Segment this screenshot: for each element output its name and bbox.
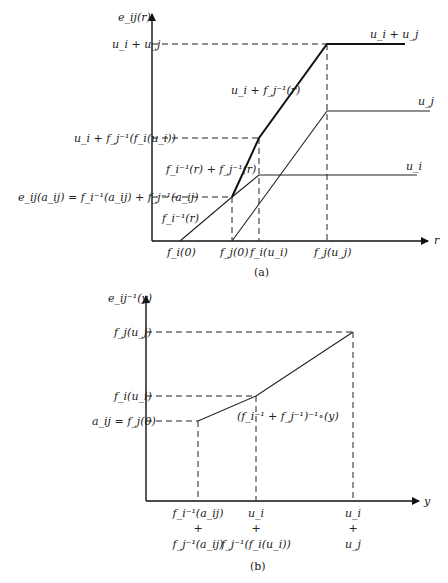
label-ui-uj: u_i + u_j bbox=[370, 28, 419, 41]
x-axis-label-b: y bbox=[423, 495, 431, 508]
ytick-eij-aij: e_ij(a_ij) = f_i⁻¹(a_ij) + f_j⁻¹(a_ij) bbox=[18, 191, 199, 204]
label-ui: u_i bbox=[406, 160, 422, 173]
x-axis-label-a: r bbox=[434, 234, 440, 247]
xtick1-plus: + bbox=[193, 522, 202, 535]
curve-inverse bbox=[198, 332, 353, 421]
curve-sum bbox=[232, 44, 405, 197]
ytick-ui-uj: u_i + u_j bbox=[112, 38, 161, 51]
ytick-fj-uj: f_j(u_j) bbox=[113, 326, 152, 339]
label-uj: u_j bbox=[418, 95, 435, 108]
label-inverse-curve: (f_i⁻¹ + f_j⁻¹)⁻¹∘(y) bbox=[237, 410, 339, 423]
xtick-fj0: f_j(0) bbox=[219, 246, 249, 259]
y-axis-label-b: e_ij⁻¹(y) bbox=[108, 292, 152, 305]
label-fi-inv-plus-fj-inv: f_i⁻¹(r) + f_j⁻¹(r) bbox=[165, 163, 256, 176]
xtick1-top: f_i⁻¹(a_ij) bbox=[172, 507, 224, 520]
xtick2-bottom: f_j⁻¹(f_i(u_i)) bbox=[220, 538, 291, 551]
panel-b: e_ij⁻¹(y) f_j(u_j) f_i(u_i) a_ij = f_j(0… bbox=[92, 292, 431, 573]
label-fi-inv-r: f_i⁻¹(r) bbox=[161, 212, 199, 225]
xtick1-bottom: f_j⁻¹(a_ij) bbox=[172, 538, 224, 551]
diagram-canvas: e_ij(r) u_i + u_j u_i + f_j⁻¹(f_i(u_i)) … bbox=[0, 0, 448, 583]
ytick-fi-ui: f_i(u_i) bbox=[113, 390, 152, 403]
ytick-aij: a_ij = f_j(0) bbox=[92, 415, 156, 428]
xtick3-top: u_i bbox=[345, 507, 361, 520]
curve-ui bbox=[180, 175, 417, 241]
xtick-fi-ui: f_i(u_i) bbox=[249, 246, 288, 259]
xtick2-plus: + bbox=[251, 522, 260, 535]
caption-b: (b) bbox=[250, 560, 266, 573]
ytick-ui-fj-inv: u_i + f_j⁻¹(f_i(u_i)) bbox=[74, 132, 176, 145]
xtick-fi0: f_i(0) bbox=[166, 246, 196, 259]
xtick3-plus: + bbox=[348, 522, 357, 535]
label-ui-fj-inv-r: u_i + f_j⁻¹(r) bbox=[231, 84, 300, 97]
panel-a: e_ij(r) u_i + u_j u_i + f_j⁻¹(f_i(u_i)) … bbox=[18, 11, 440, 279]
y-axis-label-a: e_ij(r) bbox=[118, 11, 151, 24]
xtick2-top: u_i bbox=[248, 507, 264, 520]
curve-uj bbox=[232, 111, 430, 241]
xtick3-bottom: u_j bbox=[345, 538, 362, 551]
caption-a: (a) bbox=[254, 266, 269, 279]
xtick-fj-uj: f_j(u_j) bbox=[313, 246, 352, 259]
